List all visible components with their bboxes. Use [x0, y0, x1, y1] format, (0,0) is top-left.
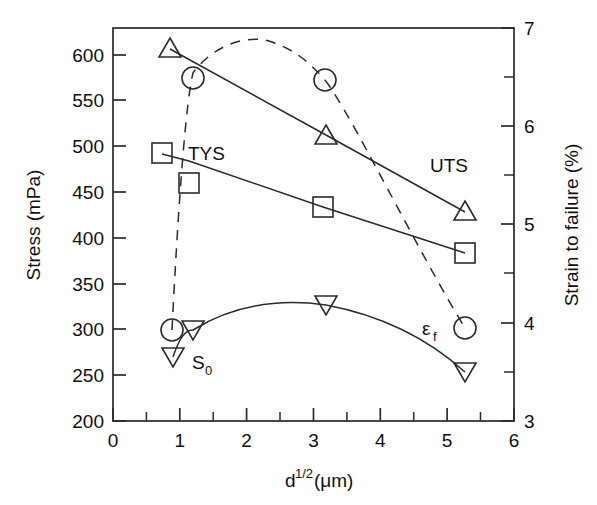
- y-axis-left-ticks: [113, 55, 126, 421]
- y-tick-550: 550: [72, 90, 104, 111]
- marker-s0-0: [162, 348, 184, 367]
- series-uts-markers: [159, 38, 476, 220]
- x-tick-2: 2: [241, 430, 252, 451]
- y-tick-450: 450: [72, 182, 104, 203]
- series-uts-line: [170, 49, 465, 212]
- marker-ef-1: [182, 67, 204, 89]
- y-tick-400: 400: [72, 228, 104, 249]
- marker-uts-0: [159, 38, 181, 57]
- marker-tys-1: [179, 173, 199, 193]
- annotation-uts: UTS: [430, 155, 468, 176]
- annotation-s0: S 0: [192, 352, 212, 378]
- x-axis-ticks: [113, 408, 514, 421]
- x-tick-3: 3: [308, 430, 319, 451]
- annotation-tys: TYS: [188, 143, 225, 164]
- y-right-tick-5: 5: [524, 214, 535, 235]
- x-tick-4: 4: [375, 430, 386, 451]
- annotation-ef: ε f: [422, 318, 437, 344]
- x-tick-6: 6: [509, 430, 520, 451]
- y-axis-right-ticks: [501, 28, 514, 421]
- y-right-tick-3: 3: [524, 411, 535, 432]
- y-tick-500: 500: [72, 136, 104, 157]
- x-axis-tick-labels: 0 1 2 3 4 5 6: [108, 430, 520, 451]
- marker-ef-3: [454, 317, 476, 339]
- annotation-s0-sub: 0: [205, 363, 212, 378]
- y-tick-250: 250: [72, 365, 104, 386]
- chart-figure: 600 550 500 450 400 350 300 250 200 7 6 …: [0, 0, 597, 505]
- annotation-s0-text: S: [192, 352, 205, 373]
- series-ef-markers: [161, 67, 476, 341]
- x-tick-5: 5: [442, 430, 453, 451]
- y-axis-left-title: Stress (mPa): [23, 170, 44, 281]
- y-right-tick-6: 6: [524, 116, 535, 137]
- y-tick-600: 600: [72, 45, 104, 66]
- y-tick-200: 200: [72, 411, 104, 432]
- x-axis-title-unit: (μm): [314, 470, 353, 491]
- y-axis-left-tick-labels: 600 550 500 450 400 350 300 250 200: [72, 45, 104, 432]
- x-tick-0: 0: [108, 430, 119, 451]
- y-right-tick-7: 7: [524, 18, 535, 39]
- annotation-tys-text: TYS: [188, 143, 225, 164]
- annotation-ef-text: ε: [422, 318, 431, 339]
- x-tick-1: 1: [175, 430, 186, 451]
- y-axis-right-title: Strain to failure (%): [561, 144, 582, 307]
- y-tick-350: 350: [72, 274, 104, 295]
- x-axis-title-d: d: [285, 470, 296, 491]
- marker-tys-0: [152, 143, 172, 163]
- series-ef-curve: [172, 39, 465, 330]
- y-tick-300: 300: [72, 319, 104, 340]
- x-axis-title-exp: 1/2: [295, 466, 313, 481]
- marker-uts-2: [454, 201, 476, 220]
- y-axis-right-tick-labels: 7 6 5 4 3: [524, 18, 535, 432]
- x-axis-title: d 1/2 (μm): [285, 466, 353, 491]
- annotation-uts-text: UTS: [430, 155, 468, 176]
- y-right-tick-4: 4: [524, 313, 535, 334]
- annotation-ef-sub: f: [433, 329, 437, 344]
